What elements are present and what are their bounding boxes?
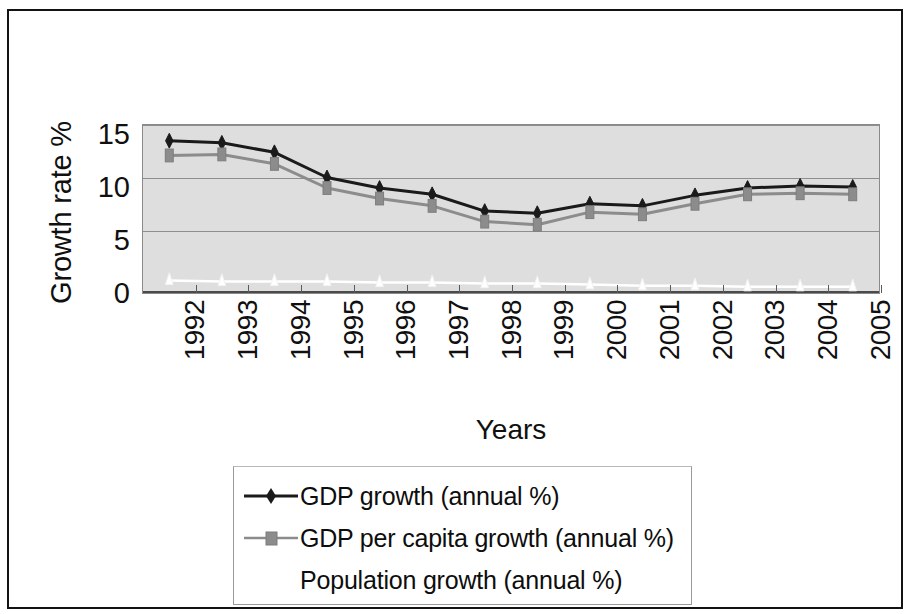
chart-figure: Growth rate % 151050 1992199319941995199… <box>0 0 909 614</box>
data-point-marker <box>428 199 436 212</box>
x-tick-label-2005: 2005 <box>865 300 897 400</box>
data-point-marker <box>586 206 594 219</box>
x-tick-label-1997: 1997 <box>443 300 475 400</box>
x-tickmark-1999 <box>565 285 566 293</box>
legend-item[interactable]: GDP per capita growth (annual %) <box>234 517 691 559</box>
data-point-marker <box>323 274 331 286</box>
x-tick-label-2003: 2003 <box>759 300 791 400</box>
x-tickmark-1993 <box>248 285 249 293</box>
data-point-marker <box>796 187 804 200</box>
x-tick-label-1998: 1998 <box>496 300 528 400</box>
series-population-growth-annual <box>165 273 856 291</box>
x-tickmark-2002 <box>723 285 724 293</box>
data-point-marker <box>481 215 489 228</box>
data-point-marker <box>323 182 331 195</box>
x-tick-label-1999: 1999 <box>548 300 580 400</box>
x-tick-label-1993: 1993 <box>232 300 264 400</box>
x-tick-label-1992: 1992 <box>179 300 211 400</box>
triangle-marker-icon <box>242 568 300 592</box>
y-axis-title: Growth rate % <box>45 98 78 328</box>
x-tickmark-1992 <box>196 285 197 293</box>
x-tick-label-2000: 2000 <box>601 300 633 400</box>
x-tick-label-1995: 1995 <box>338 300 370 400</box>
square-marker-icon <box>242 526 300 550</box>
y-axis-tick-labels: 151050 <box>78 0 130 614</box>
y-tick-label-15: 15 <box>78 120 130 149</box>
data-point-marker <box>166 133 173 148</box>
data-point-marker <box>691 278 699 290</box>
diamond-marker-icon <box>242 484 300 508</box>
data-point-marker <box>428 275 436 287</box>
data-point-marker <box>744 188 752 201</box>
plot-inner <box>143 125 879 293</box>
data-series-layer <box>143 125 879 293</box>
data-point-marker <box>270 157 278 170</box>
data-point-marker <box>271 274 279 286</box>
series-gdp-per-capita-growth-annual <box>165 148 856 231</box>
x-axis-title: Years <box>142 414 880 446</box>
data-point-marker <box>218 148 226 161</box>
x-tickmark-1996 <box>407 285 408 293</box>
x-tick-label-1996: 1996 <box>390 300 422 400</box>
x-tickmark-2001 <box>670 285 671 293</box>
data-point-marker <box>586 277 594 289</box>
x-tick-label-2004: 2004 <box>812 300 844 400</box>
data-point-marker <box>796 279 804 291</box>
legend-item[interactable]: GDP growth (annual %) <box>234 475 691 517</box>
data-point-marker <box>533 218 541 231</box>
chart-legend: GDP growth (annual %)GDP per capita grow… <box>233 466 692 605</box>
data-point-marker <box>376 275 384 287</box>
x-tickmark-2000 <box>617 285 618 293</box>
x-tickmark-1997 <box>459 285 460 293</box>
legend-item-label: GDP growth (annual %) <box>300 482 559 511</box>
x-tickmark-2005 <box>881 285 882 293</box>
y-tick-label-0: 0 <box>78 279 130 308</box>
x-axis-tick-labels: 1992199319941995199619971998199920002001… <box>142 300 880 400</box>
data-point-marker <box>218 274 226 286</box>
data-point-marker <box>691 197 699 210</box>
data-point-marker <box>638 208 646 221</box>
x-tickmark-2003 <box>776 285 777 293</box>
data-point-marker <box>849 188 857 201</box>
y-tick-label-10: 10 <box>78 173 130 202</box>
data-point-marker <box>849 279 857 291</box>
legend-item-label: GDP per capita growth (annual %) <box>300 524 674 553</box>
plot-area <box>142 124 880 294</box>
y-tick-label-5: 5 <box>78 226 130 255</box>
data-point-marker <box>165 149 173 162</box>
x-tick-label-1994: 1994 <box>285 300 317 400</box>
data-point-marker <box>744 279 752 291</box>
data-point-marker <box>533 276 541 288</box>
legend-item-label: Population growth (annual %) <box>300 566 622 595</box>
data-point-marker <box>481 276 489 288</box>
data-point-marker <box>376 192 384 205</box>
x-tickmark-1994 <box>301 285 302 293</box>
chart-canvas: Growth rate % 151050 1992199319941995199… <box>0 0 909 614</box>
x-tickmark-2004 <box>828 285 829 293</box>
data-point-marker <box>639 278 647 290</box>
legend-item[interactable]: Population growth (annual %) <box>234 559 691 601</box>
x-tick-label-2001: 2001 <box>654 300 686 400</box>
series-gdp-growth-annual <box>166 133 857 220</box>
x-tickmark-1995 <box>354 285 355 293</box>
data-point-marker <box>165 273 173 285</box>
x-tickmark-1998 <box>512 285 513 293</box>
x-tick-label-2002: 2002 <box>707 300 739 400</box>
